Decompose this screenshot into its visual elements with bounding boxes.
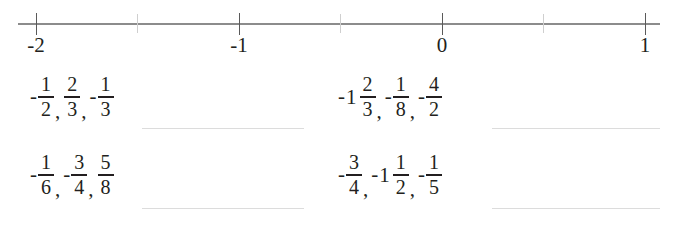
fraction-sign: - [30,164,38,185]
fraction-group-row1-left: - 1 2 , 2 3 , - 1 3 [30,68,114,126]
fraction-denominator: 4 [347,177,361,198]
fraction: 3 4 [71,152,87,198]
number-line-major-tick [645,13,646,35]
fraction: 1 2 [393,152,409,198]
fraction-numerator: 2 [65,74,79,95]
tick-label-one: 1 [615,34,675,56]
separator-comma: , [362,179,371,200]
number-line-minor-tick [137,14,138,33]
fraction-denominator: 5 [427,177,441,198]
problem-row: - 1 6 , - 3 4 , 5 8 [0,140,678,212]
fraction-term: - 1 6 [30,152,54,198]
fraction-group-row2-right: - 3 4 , - 1 1 2 , - 1 5 [338,146,442,204]
separator-comma: , [87,179,96,200]
mixed-number-whole: 1 [346,87,360,108]
number-line-major-tick [442,13,443,35]
tick-label-minus-1: -1 [209,34,269,56]
fraction-numerator: 1 [39,74,53,95]
fraction-numerator: 1 [39,152,53,173]
fraction-sign: - [90,86,98,107]
fraction-denominator: 3 [361,99,375,120]
fraction-group-row2-left: - 1 6 , - 3 4 , 5 8 [30,146,114,204]
answer-blank[interactable] [492,208,660,209]
fraction-numerator: 4 [427,74,441,95]
fraction-denominator: 3 [65,99,79,120]
fraction-numerator: 2 [361,74,375,95]
fraction-term: - 1 8 [385,74,409,120]
fraction-sign: - [418,164,426,185]
fraction-term: 2 3 [63,74,80,120]
separator-comma: , [80,101,89,122]
fraction-term: - 3 4 [63,152,87,198]
fraction: 1 5 [426,152,442,198]
fraction-numerator: 1 [394,152,408,173]
answer-blank[interactable] [492,128,660,129]
fraction: 3 4 [346,152,362,198]
separator-comma: , [409,101,418,122]
fraction-numerator: 3 [347,152,361,173]
mixed-number-whole: 1 [379,165,393,186]
fraction: 4 2 [426,74,442,120]
tick-label-minus-2: -2 [6,34,66,56]
separator-comma: , [54,101,63,122]
fraction-numerator: 5 [99,152,113,173]
fraction-denominator: 8 [99,177,113,198]
tick-label-zero: 0 [412,34,472,56]
fraction: 5 8 [98,152,114,198]
fraction: 1 8 [393,74,409,120]
number-line-minor-tick [340,14,341,33]
fraction-sign: - [338,164,346,185]
fraction: 1 3 [98,74,114,120]
number-line-minor-tick [543,14,544,33]
fraction: 2 3 [64,74,80,120]
separator-comma: , [409,179,418,200]
problem-row: - 1 2 , 2 3 , - 1 3 [0,62,678,134]
answer-blank[interactable] [142,128,304,129]
fraction: 1 6 [38,152,54,198]
fraction-denominator: 2 [39,99,53,120]
fraction-sign: - [338,86,346,107]
fraction-denominator: 2 [427,99,441,120]
fraction-term: - 4 2 [418,74,442,120]
fraction-numerator: 1 [394,74,408,95]
fraction-sign: - [371,164,379,185]
number-line-axis [18,23,660,25]
fraction-denominator: 4 [72,177,86,198]
fraction-sign: - [30,86,38,107]
number-line-major-tick [239,13,240,35]
fraction-term: 5 8 [97,152,114,198]
mixed-number-term: - 1 2 3 [338,74,376,120]
number-line-major-tick [36,13,37,35]
fraction-group-row1-right: - 1 2 3 , - 1 8 , - 4 2 [338,68,442,126]
fraction: 2 3 [360,74,376,120]
fraction-term: - 1 5 [418,152,442,198]
fraction-numerator: 1 [427,152,441,173]
fraction-denominator: 2 [394,177,408,198]
fraction-sign: - [63,164,71,185]
fraction-term: - 1 3 [90,74,114,120]
separator-comma: , [54,179,63,200]
fraction: 1 2 [38,74,54,120]
mixed-number-term: - 1 1 2 [371,152,409,198]
fraction-numerator: 3 [72,152,86,173]
fraction-numerator: 1 [99,74,113,95]
fraction-sign: - [418,86,426,107]
separator-comma: , [376,101,385,122]
answer-blank[interactable] [142,208,304,209]
fraction-denominator: 8 [394,99,408,120]
fraction-sign: - [385,86,393,107]
fraction-term: - 3 4 [338,152,362,198]
fraction-term: - 1 2 [30,74,54,120]
fraction-denominator: 3 [99,99,113,120]
number-line: -2 -1 0 1 [0,0,678,60]
fraction-denominator: 6 [39,177,53,198]
